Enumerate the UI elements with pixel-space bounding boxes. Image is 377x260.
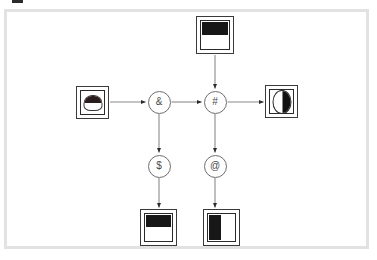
diagram-frame <box>4 9 369 249</box>
node-left-inner <box>80 90 105 115</box>
operator-label-dollar: $ <box>156 161 162 171</box>
node-bottom-left-inner <box>144 213 173 242</box>
node-top[interactable] <box>196 16 234 54</box>
node-right-inner <box>269 89 294 114</box>
top-band-box-icon <box>202 22 228 35</box>
diagram-canvas: & # $ @ <box>0 0 377 260</box>
operator-node-at[interactable]: @ <box>204 155 227 178</box>
left-band-box-icon <box>209 215 221 240</box>
corner-crop-mark <box>12 0 23 3</box>
node-left[interactable] <box>76 86 109 119</box>
operator-label-hash: # <box>212 97 218 107</box>
node-top-inner <box>200 20 230 50</box>
node-bottom-left[interactable] <box>140 209 177 246</box>
operator-label-and: & <box>156 97 163 107</box>
node-bottom-right-inner <box>207 213 236 242</box>
operator-node-and[interactable]: & <box>148 91 171 114</box>
node-bottom-right[interactable] <box>203 209 240 246</box>
node-right[interactable] <box>265 85 298 118</box>
operator-label-at: @ <box>210 161 220 171</box>
operator-node-hash[interactable]: # <box>204 91 227 114</box>
cylinder-icon <box>83 95 102 111</box>
top-band-box-icon <box>146 215 171 227</box>
half-filled-ellipse-icon <box>272 90 291 114</box>
operator-node-dollar[interactable]: $ <box>148 155 171 178</box>
